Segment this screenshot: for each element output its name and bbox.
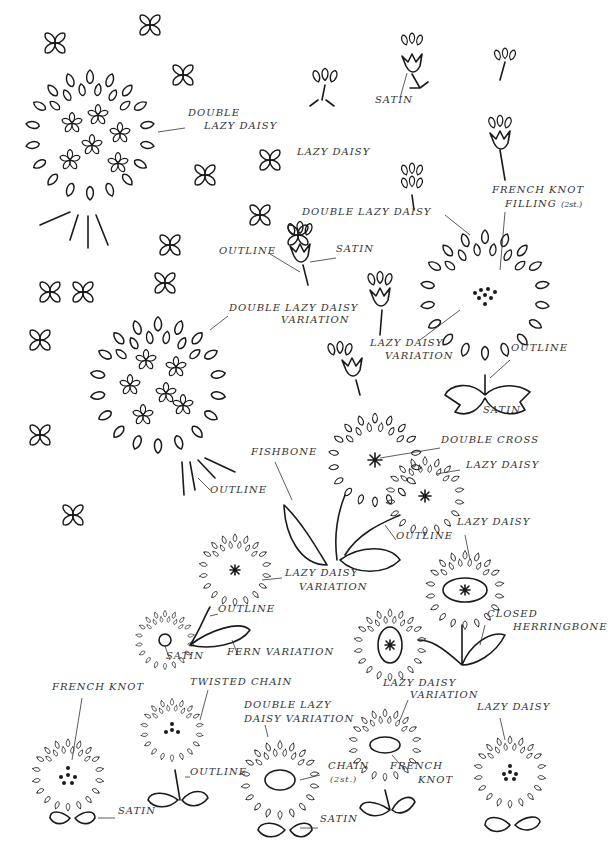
closed-herringbone-flowers [354,535,505,681]
stitch-label: CHAIN [328,760,369,772]
stitch-label: FRENCH [390,760,443,772]
double-cross-flowers [275,413,464,571]
french-knot-filling-flower [420,212,550,414]
stitch-label: SATIN [375,94,413,106]
stitch-label: (2st.) [330,774,357,786]
stitch-label: LAZY DAISY [383,677,456,689]
stitch-label: SATIN [118,805,156,817]
stitch-label: KNOT [418,774,453,786]
stitch-label: SATIN [483,404,521,416]
stitch-label: CLOSED [487,608,538,620]
stitch-label: TWISTED CHAIN [190,676,292,688]
stitch-label: LAZY DAISY [466,459,539,471]
stitch-label: DOUBLE LAZY DAISY [302,206,431,218]
stitch-label: OUTLINE [210,484,267,496]
stitch-label: VARIATION [299,581,368,593]
stitch-label: OUTLINE [219,245,276,257]
stitch-label: LAZY DAISY [297,146,370,158]
stitch-label: DAISY VARIATION [244,713,354,725]
stitch-label: OUTLINE [190,766,247,778]
stitch-label: SATIN [166,650,204,662]
stitch-label: OUTLINE [396,530,453,542]
stitch-label: FISHBONE [251,446,317,458]
stitch-label: FRENCH KNOT [492,184,584,196]
stitch-label: LAZY DAISY [477,701,550,713]
stitch-label: FRENCH KNOT [52,681,144,693]
stitch-label: LAZY DAISY [457,516,530,528]
stitch-label: SATIN [320,813,358,825]
stitch-label: HERRINGBONE [513,621,608,633]
stitch-label: VARIATION [410,689,479,701]
stitch-label: LAZY DAISY [204,120,277,132]
dandelion-double-lazy-daisy [25,70,185,248]
stitch-label: FILLING (2st.) [505,198,582,211]
dandelion-double-lazy-daisy-variation [90,316,235,495]
stitch-label: VARIATION [385,350,454,362]
stitch-label: VARIATION [281,314,350,326]
stitch-label: OUTLINE [511,342,568,354]
stitch-label: DOUBLE CROSS [441,434,539,446]
stitch-label: LAZY DAISY [285,567,358,579]
stitch-label: DOUBLE [188,107,240,119]
stitch-label: FERN VARIATION [227,646,334,658]
stitch-label: OUTLINE [218,603,275,615]
stitch-label: DOUBLE LAZY DAISY [229,302,358,314]
stitch-label: SATIN [336,243,374,255]
stitch-label: LAZY DAISY [370,337,443,349]
stitch-label: DOUBLE LAZY [244,699,332,711]
